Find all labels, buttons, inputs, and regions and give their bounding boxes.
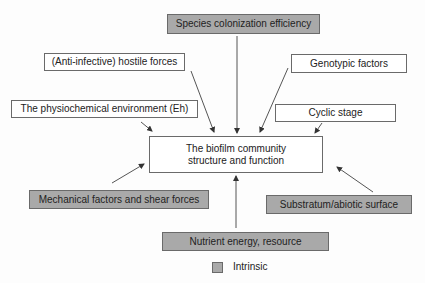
center-label-line2: structure and function xyxy=(188,155,284,167)
center-biofilm-box: The biofilm community structure and func… xyxy=(149,136,323,173)
arrow-cyclic xyxy=(315,123,322,133)
factor-nutrient: Nutrient energy, resource xyxy=(162,232,329,251)
factor-label: Nutrient energy, resource xyxy=(189,236,301,248)
factor-hostile-forces: (Anti-infective) hostile forces xyxy=(44,53,185,71)
arrow-substratum xyxy=(337,167,373,192)
legend-label: Intrinsic xyxy=(233,261,267,272)
arrow-genotypic xyxy=(260,68,288,132)
factor-species-colonization: Species colonization efficiency xyxy=(167,14,320,34)
factor-genotypic: Genotypic factors xyxy=(291,54,407,73)
center-label-line1: The biofilm community xyxy=(186,143,286,155)
factor-label: Species colonization efficiency xyxy=(176,18,311,30)
biofilm-factors-diagram: Species colonization efficiency (Anti-in… xyxy=(0,0,425,283)
factor-label: Substratum/abiotic surface xyxy=(280,199,398,211)
factor-cyclic-stage: Cyclic stage xyxy=(275,104,396,122)
factor-label: Cyclic stage xyxy=(309,107,363,119)
factor-substratum: Substratum/abiotic surface xyxy=(266,195,412,214)
factor-label: The physiochemical environment (Eh) xyxy=(21,103,189,115)
arrow-mechanical xyxy=(112,164,144,183)
factor-mechanical: Mechanical factors and shear forces xyxy=(29,190,209,209)
factor-label: Mechanical factors and shear forces xyxy=(39,194,200,206)
factor-label: Genotypic factors xyxy=(310,58,388,70)
factor-physiochemical: The physiochemical environment (Eh) xyxy=(11,100,198,118)
arrow-physiochemical xyxy=(141,122,152,131)
legend-swatch-intrinsic xyxy=(212,262,223,273)
factor-label: (Anti-infective) hostile forces xyxy=(52,56,178,68)
